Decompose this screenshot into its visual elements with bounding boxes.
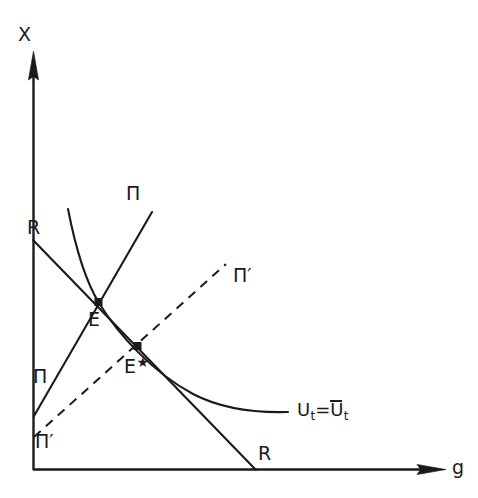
diagram-canvas: [0, 0, 478, 498]
curve-label-utility: Ut=Ut: [297, 401, 349, 422]
axis-label-g: g: [452, 458, 464, 477]
point-label-e-star: E★: [124, 355, 149, 376]
pi-prime-top-mark: ′: [247, 264, 251, 286]
utility-ubar-group: U: [330, 401, 343, 419]
curve-label-pi-bottom: Π: [33, 367, 47, 386]
e-star-mark: ★: [136, 354, 149, 370]
utility-u: U: [297, 399, 310, 420]
phase-diagram-figure: X g R R Π Π Π′ Π′ E E★ Ut=Ut: [0, 0, 478, 498]
pi-prime-top-glyph: Π: [233, 264, 247, 286]
utility-equals: =: [315, 399, 330, 420]
pi-prime-bottom-glyph: Π: [35, 430, 49, 452]
e-star-letter: E: [124, 355, 136, 377]
curve-label-r-top: R: [27, 218, 40, 237]
curve-label-r-bottom: R: [258, 444, 271, 463]
y-axis-arrow-icon: [28, 51, 38, 80]
point-marker-e-star: [134, 342, 142, 350]
x-axis-arrow-icon: [417, 464, 446, 474]
curve-label-pi-prime-top: Π′: [233, 266, 252, 285]
axis-label-x: X: [18, 25, 31, 44]
utility-ubar-subscript: t: [343, 409, 348, 423]
pi-prime-bottom-mark: ′: [49, 430, 53, 452]
point-label-e: E: [88, 310, 100, 329]
utility-ubar: U: [330, 399, 343, 420]
curve-label-pi-prime-bottom: Π′: [35, 432, 54, 451]
overbar-icon: [330, 400, 342, 402]
point-marker-e: [95, 298, 103, 306]
curve-pi-prime-locus: [34, 264, 226, 437]
curve-label-pi-top: Π: [126, 184, 140, 203]
